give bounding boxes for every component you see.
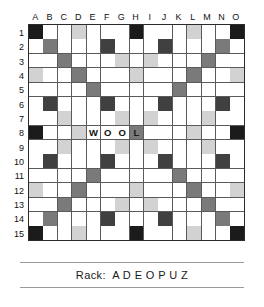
board-cell-H5[interactable] bbox=[130, 83, 144, 97]
board-cell-I10[interactable] bbox=[144, 154, 158, 168]
board-cell-K12[interactable] bbox=[173, 183, 187, 197]
scrabble-board[interactable]: ABCDEFGHIJKLMNO 123456789101112131415 WO… bbox=[28, 10, 245, 241]
board-cell-A1[interactable] bbox=[29, 25, 43, 39]
board-cell-G9[interactable] bbox=[115, 140, 129, 154]
board-cell-A6[interactable] bbox=[29, 97, 43, 111]
board-cell-M5[interactable] bbox=[202, 83, 216, 97]
board-cell-A8[interactable] bbox=[29, 126, 43, 140]
board-cell-J11[interactable] bbox=[158, 169, 172, 183]
board-cell-E4[interactable] bbox=[87, 68, 101, 82]
board-cell-F9[interactable] bbox=[101, 140, 115, 154]
board-cell-E3[interactable] bbox=[87, 54, 101, 68]
board-cell-F12[interactable] bbox=[101, 183, 115, 197]
board-cell-H4[interactable] bbox=[130, 68, 144, 82]
board-cell-B5[interactable] bbox=[43, 83, 57, 97]
board-cell-C13[interactable] bbox=[58, 198, 72, 212]
board-cell-N10[interactable] bbox=[216, 154, 230, 168]
board-cell-K6[interactable] bbox=[173, 97, 187, 111]
board-cell-K10[interactable] bbox=[173, 154, 187, 168]
board-cell-D4[interactable] bbox=[72, 68, 86, 82]
board-cell-K5[interactable] bbox=[173, 83, 187, 97]
board-cell-I15[interactable] bbox=[144, 226, 158, 240]
board-cell-G13[interactable] bbox=[115, 198, 129, 212]
board-cell-G7[interactable] bbox=[115, 111, 129, 125]
board-cell-F13[interactable] bbox=[101, 198, 115, 212]
board-cell-G15[interactable] bbox=[115, 226, 129, 240]
board-cell-H13[interactable] bbox=[130, 198, 144, 212]
board-cell-F15[interactable] bbox=[101, 226, 115, 240]
board-cell-E5[interactable] bbox=[87, 83, 101, 97]
board-cell-H2[interactable] bbox=[130, 39, 144, 53]
board-cell-A13[interactable] bbox=[29, 198, 43, 212]
board-cell-H11[interactable] bbox=[130, 169, 144, 183]
board-cell-N6[interactable] bbox=[216, 97, 230, 111]
board-cell-M7[interactable] bbox=[202, 111, 216, 125]
board-cell-M12[interactable] bbox=[202, 183, 216, 197]
board-cell-I9[interactable] bbox=[144, 140, 158, 154]
board-cell-N2[interactable] bbox=[216, 39, 230, 53]
board-cell-N12[interactable] bbox=[216, 183, 230, 197]
board-cell-C12[interactable] bbox=[58, 183, 72, 197]
board-cell-K15[interactable] bbox=[173, 226, 187, 240]
board-cell-G8[interactable]: O bbox=[115, 126, 129, 140]
board-cell-G1[interactable] bbox=[115, 25, 129, 39]
board-cell-M6[interactable] bbox=[202, 97, 216, 111]
board-cell-B11[interactable] bbox=[43, 169, 57, 183]
board-cell-G12[interactable] bbox=[115, 183, 129, 197]
board-cell-M9[interactable] bbox=[202, 140, 216, 154]
board-cell-D11[interactable] bbox=[72, 169, 86, 183]
board-cell-E10[interactable] bbox=[87, 154, 101, 168]
board-cell-L14[interactable] bbox=[187, 212, 201, 226]
board-cell-J10[interactable] bbox=[158, 154, 172, 168]
board-cell-C11[interactable] bbox=[58, 169, 72, 183]
board-cell-M15[interactable] bbox=[202, 226, 216, 240]
board-cell-G4[interactable] bbox=[115, 68, 129, 82]
board-cell-O11[interactable] bbox=[230, 169, 244, 183]
board-cell-F1[interactable] bbox=[101, 25, 115, 39]
board-cell-F6[interactable] bbox=[101, 97, 115, 111]
board-cell-A14[interactable] bbox=[29, 212, 43, 226]
board-cell-K2[interactable] bbox=[173, 39, 187, 53]
board-cell-L5[interactable] bbox=[187, 83, 201, 97]
board-cell-H14[interactable] bbox=[130, 212, 144, 226]
board-cell-E14[interactable] bbox=[87, 212, 101, 226]
board-cell-N5[interactable] bbox=[216, 83, 230, 97]
board-cell-H6[interactable] bbox=[130, 97, 144, 111]
board-cell-N11[interactable] bbox=[216, 169, 230, 183]
board-cell-D13[interactable] bbox=[72, 198, 86, 212]
board-cell-E7[interactable] bbox=[87, 111, 101, 125]
board-cell-I11[interactable] bbox=[144, 169, 158, 183]
board-cell-I7[interactable] bbox=[144, 111, 158, 125]
board-cell-L11[interactable] bbox=[187, 169, 201, 183]
board-cell-C2[interactable] bbox=[58, 39, 72, 53]
board-cell-A9[interactable] bbox=[29, 140, 43, 154]
board-cell-K1[interactable] bbox=[173, 25, 187, 39]
board-cell-L12[interactable] bbox=[187, 183, 201, 197]
board-cell-A5[interactable] bbox=[29, 83, 43, 97]
board-cell-B2[interactable] bbox=[43, 39, 57, 53]
board-cell-K3[interactable] bbox=[173, 54, 187, 68]
board-cell-L9[interactable] bbox=[187, 140, 201, 154]
board-cell-O1[interactable] bbox=[230, 25, 244, 39]
board-cell-I8[interactable] bbox=[144, 126, 158, 140]
board-cell-E13[interactable] bbox=[87, 198, 101, 212]
board-cell-M11[interactable] bbox=[202, 169, 216, 183]
board-cell-F14[interactable] bbox=[101, 212, 115, 226]
board-cell-B9[interactable] bbox=[43, 140, 57, 154]
board-grid[interactable]: WOOL bbox=[28, 24, 245, 241]
board-cell-E2[interactable] bbox=[87, 39, 101, 53]
board-cell-I5[interactable] bbox=[144, 83, 158, 97]
board-cell-O2[interactable] bbox=[230, 39, 244, 53]
board-cell-C4[interactable] bbox=[58, 68, 72, 82]
board-cell-O10[interactable] bbox=[230, 154, 244, 168]
board-cell-N13[interactable] bbox=[216, 198, 230, 212]
board-cell-O8[interactable] bbox=[230, 126, 244, 140]
board-cell-N4[interactable] bbox=[216, 68, 230, 82]
board-cell-K4[interactable] bbox=[173, 68, 187, 82]
board-cell-L2[interactable] bbox=[187, 39, 201, 53]
board-cell-B6[interactable] bbox=[43, 97, 57, 111]
board-cell-O9[interactable] bbox=[230, 140, 244, 154]
board-cell-O6[interactable] bbox=[230, 97, 244, 111]
board-cell-M8[interactable] bbox=[202, 126, 216, 140]
board-cell-G10[interactable] bbox=[115, 154, 129, 168]
